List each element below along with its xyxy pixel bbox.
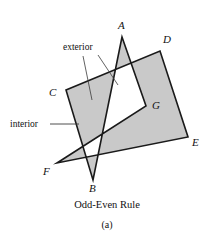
vertex-label-a: A [118,20,125,31]
odd-even-rule-figure: A B C D E F G exterior interior Odd-Even… [0,0,214,234]
vertex-label-e: E [192,137,199,148]
annotation-label-interior: interior [10,119,38,129]
figure-sub-caption: (a) [0,219,214,231]
vertex-label-g: G [152,100,160,111]
vertex-label-f: F [43,166,50,177]
figure-caption: Odd-Even Rule [0,199,214,211]
annotation-label-exterior: exterior [63,42,93,52]
vertex-label-d: D [163,34,171,45]
self-intersecting-polygon [57,37,188,180]
vertex-label-b: B [89,183,96,194]
vertex-label-c: C [49,87,56,98]
